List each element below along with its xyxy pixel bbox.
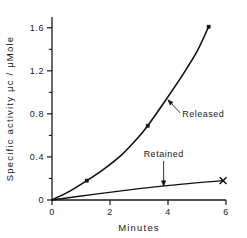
data-point-marker bbox=[85, 179, 88, 182]
x-tick-label: 0 bbox=[49, 207, 55, 217]
x-tick-label: 2 bbox=[107, 207, 113, 217]
annotation-group: Released Retained bbox=[144, 100, 225, 186]
y-tick-label: 0.4 bbox=[30, 152, 44, 162]
x-axis-title: Minutes bbox=[118, 222, 160, 233]
x-axis-tick-labels: 0246 bbox=[49, 207, 229, 217]
y-axis-ticks bbox=[47, 28, 52, 200]
retained-label: Retained bbox=[144, 149, 184, 159]
series-retained bbox=[52, 177, 227, 200]
data-point-marker bbox=[207, 25, 210, 28]
x-tick-label: 4 bbox=[165, 207, 171, 217]
y-tick-label: 0 bbox=[38, 195, 44, 205]
y-axis-tick-labels: 00.40.81.21.6 bbox=[30, 23, 44, 205]
x-tick-label: 6 bbox=[223, 207, 229, 217]
y-axis-group: 00.40.81.21.6 Specific activity μc / μMo… bbox=[4, 17, 52, 205]
data-point-marker bbox=[146, 124, 149, 127]
y-tick-label: 1.2 bbox=[30, 66, 44, 76]
chart-figure: 00.40.81.21.6 Specific activity μc / μMo… bbox=[0, 0, 247, 238]
retained-curve bbox=[52, 181, 223, 200]
x-axis-group: 0246 Minutes bbox=[49, 200, 229, 233]
y-axis-title: Specific activity μc / μMole bbox=[4, 36, 15, 181]
y-tick-label: 1.6 bbox=[30, 23, 44, 33]
y-tick-label: 0.8 bbox=[30, 109, 44, 119]
x-axis-ticks bbox=[52, 200, 226, 205]
specific-activity-plot: 00.40.81.21.6 Specific activity μc / μMo… bbox=[0, 0, 247, 238]
released-label: Released bbox=[182, 109, 224, 119]
